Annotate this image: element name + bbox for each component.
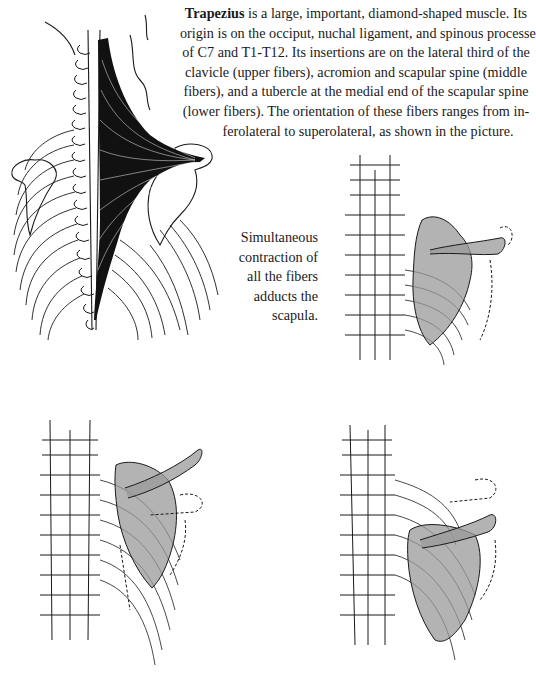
scapula-depression-figure: [330, 420, 530, 670]
scapula-shaded-icon: [413, 217, 472, 345]
scapula-elevation-figure: [30, 410, 230, 670]
spine-icon: [72, 30, 100, 330]
spine-icon: [340, 425, 395, 645]
trapezius-back-view-figure: [0, 0, 250, 340]
scapula-adduction-figure: [330, 150, 536, 370]
spine-icon: [40, 420, 100, 640]
spine-icon: [345, 155, 405, 360]
